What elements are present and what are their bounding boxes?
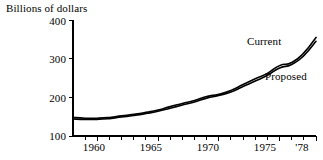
- chart-axes: [69, 20, 316, 141]
- series-line-current: [73, 37, 316, 118]
- chart-figure: Billions of dollars 400 300 200 100 1960…: [0, 0, 323, 160]
- x-axis-ticks: [85, 136, 316, 141]
- annotation-leader: [295, 39, 307, 43]
- series-line-proposed: [73, 41, 316, 119]
- chart-plot-area: [0, 0, 323, 160]
- chart-series-group: [73, 37, 316, 119]
